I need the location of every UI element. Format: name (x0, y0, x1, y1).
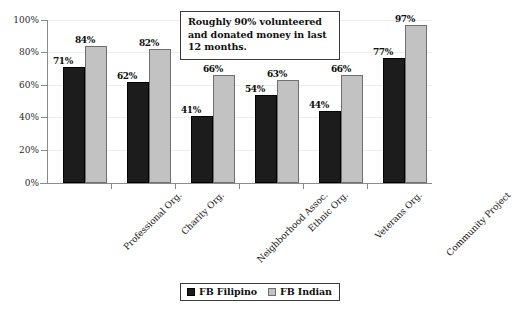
y-tick-label-100: 100% (0, 15, 39, 25)
bar-professional-org-fb-indian (85, 46, 107, 183)
x-axis-label-professional-org: Professional Org. (122, 190, 184, 252)
legend-swatch-icon-fb-indian (268, 288, 276, 296)
y-tick-label-40: 40% (0, 112, 39, 122)
y-tick-mark-40 (41, 117, 47, 118)
annotation-callout: Roughly 90% volunteered and donated mone… (180, 11, 340, 60)
x-axis-line (40, 183, 432, 184)
bar-veterans-org-fb-filipino (319, 111, 341, 183)
bar-neighborhood-assoc-fb-filipino (191, 116, 213, 183)
value-label-veterans-org-fb-filipino: 44% (302, 100, 336, 110)
value-label-ethnic-org-fb-filipino: 54% (238, 84, 272, 94)
legend-swatch-icon-fb-filipino (187, 288, 195, 296)
y-tick-mark-20 (41, 150, 47, 151)
bar-veterans-org-fb-indian (341, 75, 363, 183)
y-tick-label-0: 0% (0, 178, 39, 188)
value-label-veterans-org-fb-indian: 66% (324, 64, 358, 74)
x-tick-mark-3 (239, 184, 240, 189)
bar-charity-org-fb-filipino (127, 82, 149, 183)
y-tick-mark-0 (41, 183, 47, 184)
bar-community-project-fb-filipino (383, 58, 405, 183)
bar-ethnic-org-fb-filipino (255, 95, 277, 183)
value-label-charity-org-fb-indian: 82% (132, 38, 166, 48)
y-tick-label-80: 80% (0, 47, 39, 57)
y-tick-mark-100 (41, 20, 47, 21)
bar-ethnic-org-fb-indian (277, 80, 299, 183)
value-label-ethnic-org-fb-indian: 63% (260, 69, 294, 79)
legend-label-fb-indian: FB Indian (280, 287, 332, 297)
legend-item-fb-filipino: FB Filipino (187, 287, 257, 297)
value-label-community-project-fb-indian: 97% (388, 14, 422, 24)
value-label-neighborhood-assoc-fb-filipino: 41% (174, 105, 208, 115)
legend-item-fb-indian: FB Indian (268, 287, 332, 297)
x-tick-mark-5 (367, 184, 368, 189)
value-label-neighborhood-assoc-fb-indian: 66% (196, 64, 230, 74)
x-axis-label-charity-org: Charity Org. (179, 190, 226, 237)
y-tick-mark-60 (41, 85, 47, 86)
x-axis-label-veterans-org: Veterans Org. (373, 190, 424, 241)
value-label-community-project-fb-filipino: 77% (366, 47, 400, 57)
x-tick-mark-2 (175, 184, 176, 189)
legend-label-fb-filipino: FB Filipino (199, 287, 257, 297)
y-tick-label-60: 60% (0, 80, 39, 90)
bar-neighborhood-assoc-fb-indian (213, 75, 235, 183)
y-tick-mark-80 (41, 52, 47, 53)
value-label-professional-org-fb-filipino: 71% (46, 56, 80, 66)
y-tick-label-20: 20% (0, 145, 39, 155)
value-label-professional-org-fb-indian: 84% (68, 35, 102, 45)
bar-professional-org-fb-filipino (63, 67, 85, 183)
x-tick-mark-4 (303, 184, 304, 189)
x-axis-label-community-project: Community Project (444, 190, 512, 258)
x-tick-mark-1 (111, 184, 112, 189)
y-axis-line (47, 20, 48, 184)
chart-legend: FB Filipino FB Indian (180, 283, 340, 301)
value-label-charity-org-fb-filipino: 62% (110, 71, 144, 81)
bar-charity-org-fb-indian (149, 49, 171, 183)
bar-community-project-fb-indian (405, 25, 427, 183)
